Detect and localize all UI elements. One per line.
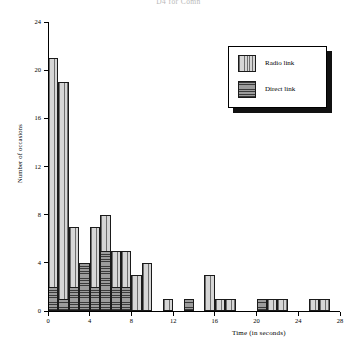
x-axis-label: Time (in seconds) — [232, 329, 286, 337]
bar — [79, 263, 89, 311]
bar — [48, 287, 58, 311]
x-tick — [131, 312, 132, 316]
bar — [184, 299, 194, 311]
y-tick — [44, 22, 48, 23]
bar — [215, 299, 225, 311]
legend-label-direct-link: Direct link — [265, 85, 295, 93]
y-tick — [44, 262, 48, 263]
x-tick-label: 4 — [82, 317, 98, 324]
y-tick-label: 4 — [25, 259, 41, 266]
histogram-figure: D4 for Comn Number of occasions Time (in… — [0, 0, 357, 347]
legend-label-radio-link: Radio link — [265, 59, 294, 67]
x-tick-label: 0 — [40, 317, 56, 324]
x-tick-label: 28 — [332, 317, 348, 324]
y-axis-line — [48, 22, 49, 312]
x-axis-line — [48, 311, 340, 312]
bar — [58, 82, 68, 311]
x-tick-label: 12 — [165, 317, 181, 324]
bar — [48, 58, 58, 311]
y-tick — [44, 70, 48, 71]
y-tick-label: 24 — [25, 18, 41, 25]
bar — [163, 299, 173, 311]
bar — [267, 299, 277, 311]
y-tick-label: 0 — [25, 307, 41, 314]
y-tick — [44, 166, 48, 167]
x-tick — [340, 312, 341, 316]
x-tick-label: 16 — [207, 317, 223, 324]
x-tick — [298, 312, 299, 316]
legend-item-radio-link: Radio link — [238, 55, 324, 73]
y-tick-label: 16 — [25, 114, 41, 121]
x-tick — [89, 312, 90, 316]
x-tick-label: 24 — [290, 317, 306, 324]
bar — [131, 275, 141, 311]
bar — [204, 275, 214, 311]
x-tick-label: 20 — [249, 317, 265, 324]
x-tick — [256, 312, 257, 316]
legend-swatch-radio-link-icon — [238, 55, 256, 72]
bar — [142, 263, 152, 311]
bar — [121, 287, 131, 311]
x-tick — [214, 312, 215, 316]
chart-title: D4 for Comn — [0, 0, 357, 6]
bar — [90, 287, 100, 311]
legend-swatch-direct-link-icon — [238, 81, 256, 98]
bar — [257, 299, 267, 311]
chart-legend: Radio link Direct link — [228, 46, 327, 108]
bar — [69, 287, 79, 311]
y-axis-label: Number of occasions — [16, 99, 23, 209]
x-tick — [173, 312, 174, 316]
bar — [58, 299, 68, 311]
bar — [309, 299, 319, 311]
legend-box: Radio link Direct link — [228, 46, 327, 108]
y-tick-label: 20 — [25, 66, 41, 73]
y-tick — [44, 118, 48, 119]
legend-item-direct-link: Direct link — [238, 81, 324, 99]
y-tick-label: 8 — [25, 211, 41, 218]
y-tick-label: 12 — [25, 163, 41, 170]
y-tick — [44, 214, 48, 215]
bar — [277, 299, 287, 311]
bar — [225, 299, 235, 311]
x-tick-label: 8 — [123, 317, 139, 324]
bar — [111, 287, 121, 311]
bar — [319, 299, 329, 311]
bar — [100, 251, 110, 311]
x-tick — [48, 312, 49, 316]
